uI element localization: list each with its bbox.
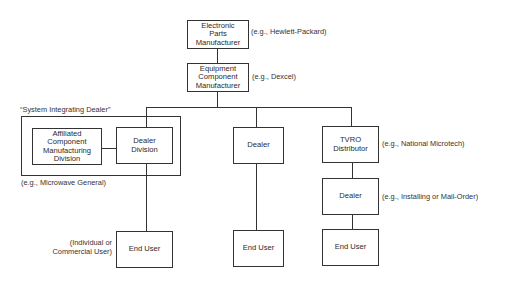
- affiliated-component-division-box: Affiliated Component Manufacturing Divis…: [32, 128, 102, 165]
- end-user-left-label: End User: [129, 245, 161, 254]
- tvro-distributor-label: TVRO Distributor: [333, 136, 368, 153]
- dealer-middle-label: Dealer: [247, 141, 269, 150]
- connector-dealer-middle-end-user: [256, 163, 257, 230]
- electronic-parts-example: (e.g., Hewlett-Packard): [251, 27, 327, 36]
- end-user-right-label: End User: [335, 243, 367, 252]
- dealer-division-box: Dealer Division: [116, 127, 173, 164]
- tvro-distributor-example: (e.g., National Microtech): [382, 139, 465, 148]
- connector-tvro-dealer: [352, 162, 353, 178]
- end-user-middle-box: End User: [233, 230, 284, 267]
- equipment-component-manufacturer-label: Equipment Component Manufacturer: [196, 65, 241, 91]
- dealer-right-example: (e.g., Installing or Mail-Order): [382, 192, 478, 201]
- equipment-component-manufacturer-box: Equipment Component Manufacturer: [187, 63, 249, 92]
- connector-to-tvro: [351, 107, 352, 126]
- dealer-right-box: Dealer: [322, 178, 379, 215]
- electronic-parts-manufacturer-box: Electronic Parts Manufacturer: [187, 20, 249, 49]
- connector-electronic-equipment: [217, 48, 218, 63]
- tvro-distributor-box: TVRO Distributor: [322, 126, 379, 163]
- end-user-left-note: (Individual or Commercial User): [40, 238, 112, 256]
- connector-dealer-right-end-user: [352, 214, 353, 229]
- affiliated-component-division-label: Affiliated Component Manufacturing Divis…: [43, 130, 91, 164]
- connector-equipment-trunk: [217, 91, 218, 107]
- end-user-left-box: End User: [116, 231, 173, 268]
- system-integrating-dealer-example: (e.g., Microwave General): [21, 178, 106, 187]
- end-user-middle-label: End User: [243, 244, 275, 253]
- dealer-division-label: Dealer Division: [131, 137, 158, 154]
- dealer-right-label: Dealer: [339, 192, 361, 201]
- connector-branch-bar: [146, 107, 352, 108]
- end-user-right-box: End User: [322, 229, 379, 266]
- system-integrating-dealer-title: “System Integrating Dealer”: [20, 105, 110, 114]
- connector-to-dealer-middle: [256, 107, 257, 127]
- equipment-component-example: (e.g., Dexcel): [252, 72, 296, 81]
- electronic-parts-manufacturer-label: Electronic Parts Manufacturer: [196, 22, 241, 48]
- dealer-middle-box: Dealer: [233, 127, 284, 164]
